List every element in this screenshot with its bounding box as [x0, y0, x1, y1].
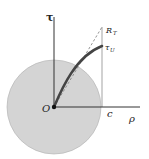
tau-axis-label: τ — [46, 11, 53, 24]
r-t-subscript: T — [113, 30, 117, 36]
origin-label: O — [42, 103, 50, 114]
stress-diagram: τ ρ O c R T τ U — [0, 0, 149, 159]
rho-axis-label: ρ — [128, 113, 135, 124]
r-t-label: R — [105, 26, 112, 35]
origin-point — [52, 105, 56, 109]
c-label: c — [107, 108, 113, 119]
tau-u-subscript: U — [110, 47, 115, 53]
